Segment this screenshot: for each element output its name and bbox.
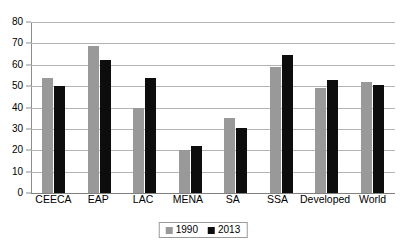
y-axis: 80706050403020100: [0, 22, 31, 193]
y-axis-tick-label: 0: [17, 188, 23, 198]
y-axis-tick-label: 50: [12, 81, 23, 91]
legend-item-2013[interactable]: 2013: [208, 225, 240, 235]
y-axis-tick-label: 80: [12, 17, 23, 27]
y-axis-tick-label: 60: [12, 60, 23, 70]
legend-label: 1990: [176, 225, 198, 235]
bar-group: [31, 22, 77, 193]
bar-groups: [31, 22, 395, 193]
bar-ceeca-1990[interactable]: [42, 78, 53, 193]
bar-sa-2013[interactable]: [236, 128, 247, 193]
x-axis-label-ssa: SSA: [255, 194, 300, 205]
x-axis-labels: CEECAEAPLACMENASASSADevelopedWorld: [31, 194, 395, 205]
bar-world-2013[interactable]: [373, 85, 384, 193]
bar-ssa-1990[interactable]: [270, 67, 281, 193]
bar-ceeca-2013[interactable]: [54, 86, 65, 193]
bar-sa-1990[interactable]: [224, 118, 235, 193]
x-axis-label-eap: EAP: [76, 194, 121, 205]
x-axis-label-sa: SA: [210, 194, 255, 205]
bar-group: [304, 22, 350, 193]
bar-lac-1990[interactable]: [133, 108, 144, 194]
bar-mena-1990[interactable]: [179, 150, 190, 193]
legend-label: 2013: [218, 225, 240, 235]
x-axis-label-mena: MENA: [165, 194, 210, 205]
bar-group: [350, 22, 396, 193]
legend: 19902013: [159, 222, 248, 238]
x-axis-label-lac: LAC: [121, 194, 166, 205]
x-axis-label-developed: Developed: [300, 194, 350, 205]
y-axis-tick-label: 10: [12, 167, 23, 177]
y-axis-tick-label: 30: [12, 124, 23, 134]
bar-eap-1990[interactable]: [88, 46, 99, 193]
legend-swatch-icon: [166, 227, 173, 234]
plot-area: [31, 22, 395, 193]
x-axis-label-world: World: [350, 194, 395, 205]
x-axis-label-ceeca: CEECA: [31, 194, 76, 205]
bar-group: [122, 22, 168, 193]
y-axis-tick-label: 70: [12, 38, 23, 48]
bar-developed-2013[interactable]: [327, 80, 338, 193]
bar-mena-2013[interactable]: [191, 146, 202, 193]
legend-item-1990[interactable]: 1990: [166, 225, 198, 235]
bar-group: [213, 22, 259, 193]
legend-swatch-icon: [208, 227, 215, 234]
bar-world-1990[interactable]: [361, 82, 372, 193]
bar-group: [168, 22, 214, 193]
bar-group: [259, 22, 305, 193]
bar-eap-2013[interactable]: [100, 60, 111, 193]
y-axis-tick-label: 40: [12, 103, 23, 113]
y-axis-tick-label: 20: [12, 145, 23, 155]
bar-lac-2013[interactable]: [145, 78, 156, 193]
bar-ssa-2013[interactable]: [282, 55, 293, 193]
bar-developed-1990[interactable]: [315, 88, 326, 193]
bar-chart: 80706050403020100 CEECAEAPLACMENASASSADe…: [0, 0, 406, 244]
bar-group: [77, 22, 123, 193]
